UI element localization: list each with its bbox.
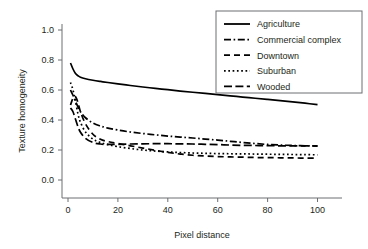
chart-figure: 0.00.20.40.60.81.0 020406080100 Pixel di… [0, 0, 368, 249]
x-tick-label: 0 [65, 205, 70, 215]
x-tick-label: 60 [213, 205, 223, 215]
line-chart: 0.00.20.40.60.81.0 020406080100 Pixel di… [0, 0, 368, 249]
legend-label-suburban[interactable]: Suburban [257, 66, 296, 76]
y-tick-label: 0.2 [41, 145, 54, 155]
legend-label-downtown[interactable]: Downtown [257, 51, 299, 61]
y-axis-ticks: 0.00.20.40.60.81.0 [41, 25, 62, 185]
y-tick-label: 0.8 [41, 55, 54, 65]
legend: AgricultureCommercial complexDowntownSub… [216, 11, 362, 93]
y-tick-label: 0.4 [41, 115, 54, 125]
series-line-commercial-complex [71, 90, 318, 146]
x-axis-title: Pixel distance [174, 230, 230, 240]
x-tick-label: 40 [163, 205, 173, 215]
y-tick-label: 0.6 [41, 85, 54, 95]
y-tick-label: 1.0 [41, 25, 54, 35]
x-axis-ticks: 020406080100 [65, 198, 325, 215]
legend-label-wooded[interactable]: Wooded [257, 82, 290, 92]
x-tick-label: 100 [310, 205, 325, 215]
series-line-wooded [71, 108, 318, 146]
y-tick-label: 0.0 [41, 175, 54, 185]
legend-label-agriculture[interactable]: Agriculture [257, 19, 300, 29]
legend-label-commercial-complex[interactable]: Commercial complex [257, 35, 342, 45]
y-axis-title: Texture homogeneity [17, 69, 27, 153]
x-tick-label: 80 [263, 205, 273, 215]
x-tick-label: 20 [113, 205, 123, 215]
